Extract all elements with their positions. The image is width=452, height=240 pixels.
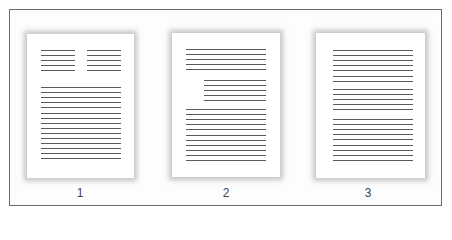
p2-indented-line (204, 80, 266, 81)
p2-top-line (186, 54, 266, 55)
p1-body-line (41, 133, 121, 134)
p2-top-line (186, 69, 266, 70)
p2-indented-line (204, 90, 266, 91)
p3-para3-line (333, 134, 413, 135)
p2-body-line (186, 124, 266, 125)
p2-indented-line (204, 100, 266, 101)
p1-body-line (41, 102, 121, 103)
p1-body-line (41, 128, 121, 129)
p3-para1-line (333, 81, 413, 82)
p1-left-column-line (41, 55, 75, 56)
page-label-1: 1 (70, 186, 90, 200)
p2-top-line (186, 49, 266, 50)
p1-body-line (41, 158, 121, 159)
p1-body-line (41, 138, 121, 139)
p3-para1-line (333, 60, 413, 61)
p3-para1-line (333, 55, 413, 56)
p3-para3-line (333, 139, 413, 140)
p2-top-line (186, 64, 266, 65)
p3-para3-line (333, 150, 413, 151)
p1-body-line (41, 148, 121, 149)
p1-right-column-line (87, 60, 121, 61)
p1-body-line (41, 123, 121, 124)
p1-right-column-line (87, 55, 121, 56)
p2-top-line (186, 59, 266, 60)
p1-body-line (41, 153, 121, 154)
p3-para2-line (333, 104, 413, 105)
p2-body-line (186, 135, 266, 136)
p2-body-line (186, 155, 266, 156)
p2-body-line (186, 150, 266, 151)
p3-para3-line (333, 119, 413, 120)
p3-para3-line (333, 160, 413, 161)
p2-body-line (186, 140, 266, 141)
p3-para1-line (333, 70, 413, 71)
p3-para1-line (333, 65, 413, 66)
p1-right-column-line (87, 65, 121, 66)
p1-left-column-line (41, 60, 75, 61)
p1-right-column-line (87, 50, 121, 51)
p1-body-line (41, 97, 121, 98)
p3-para2-line (333, 99, 413, 100)
p3-para3-line (333, 155, 413, 156)
p2-indented-line (204, 85, 266, 86)
p1-body-line (41, 118, 121, 119)
p3-para2-line (333, 109, 413, 110)
page-label-3: 3 (358, 186, 378, 200)
p1-body-line (41, 92, 121, 93)
p3-para3-line (333, 145, 413, 146)
p3-para3-line (333, 124, 413, 125)
p2-body-line (186, 145, 266, 146)
p3-para2-line (333, 94, 413, 95)
p1-right-column-line (87, 70, 121, 71)
p1-left-column-line (41, 50, 75, 51)
p2-body-line (186, 160, 266, 161)
p2-indented-line (204, 95, 266, 96)
p1-body-line (41, 113, 121, 114)
p2-body-line (186, 129, 266, 130)
p3-para2-line (333, 89, 413, 90)
p3-para1-line (333, 76, 413, 77)
page-label-2: 2 (216, 186, 236, 200)
p1-left-column-line (41, 70, 75, 71)
p1-left-column-line (41, 65, 75, 66)
p3-para1-line (333, 50, 413, 51)
p2-body-line (186, 114, 266, 115)
p2-body-line (186, 109, 266, 110)
p3-para3-line (333, 129, 413, 130)
p1-body-line (41, 87, 121, 88)
p1-body-line (41, 143, 121, 144)
p2-body-line (186, 119, 266, 120)
p1-body-line (41, 107, 121, 108)
